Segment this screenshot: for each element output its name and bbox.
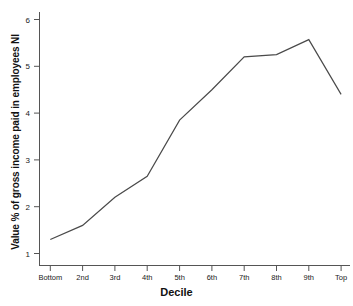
line-chart: Value % of gross income paid in employee…	[0, 0, 353, 306]
y-tick-label: 1	[26, 250, 31, 259]
x-tick-label: 5th	[174, 273, 184, 282]
x-tick-label: 6th	[207, 273, 217, 282]
x-axis-ticks	[50, 266, 341, 272]
x-axis-title: Decile	[0, 286, 353, 298]
x-tick-label: 3rd	[109, 273, 120, 282]
y-tick-label: 2	[26, 203, 31, 212]
x-axis-tick-labels: Bottom 2nd 3rd 4th 5th 6th 7th 8th 9th T…	[38, 273, 347, 282]
y-axis-tick-labels: 6 5 4 3 2 1	[26, 16, 31, 259]
x-tick-label: 4th	[142, 273, 152, 282]
x-tick-label: 2nd	[76, 273, 89, 282]
x-tick-label: Top	[335, 273, 347, 282]
data-line-series	[50, 40, 341, 240]
x-tick-label: Bottom	[38, 273, 62, 282]
y-axis-ticks	[34, 20, 40, 254]
y-tick-label: 6	[26, 16, 31, 25]
y-tick-label: 3	[26, 156, 31, 165]
x-tick-label: 9th	[304, 273, 314, 282]
x-tick-label: 8th	[271, 273, 281, 282]
x-tick-label: 7th	[239, 273, 249, 282]
y-tick-label: 5	[26, 62, 31, 71]
y-tick-label: 4	[26, 109, 31, 118]
plot-area: 6 5 4 3 2 1 Bottom 2nd 3rd 4th 5th	[0, 0, 353, 306]
